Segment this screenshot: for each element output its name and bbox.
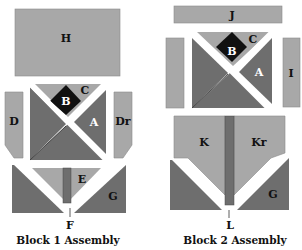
- block2-label-a: A: [254, 66, 264, 79]
- block1-label-dr: Dr: [115, 115, 131, 128]
- block2-caption: Block 2 Assembly: [183, 234, 287, 246]
- block2-label-l: L: [226, 219, 234, 232]
- block2-piece-j: [174, 6, 282, 23]
- block2-label-c: C: [249, 33, 258, 46]
- block1-label-h: H: [61, 32, 71, 45]
- block2-label-kr: Kr: [251, 136, 267, 149]
- block1-piece-f: [63, 168, 71, 203]
- block1-label-g: G: [108, 190, 117, 203]
- quilt-block-assembly-diagram: H B C A D Dr G E F B: [0, 0, 302, 250]
- block2-label-i: I: [288, 67, 293, 80]
- block-1-assembly: H B C A D Dr G E F B: [5, 9, 132, 246]
- block1-caption: Block 1 Assembly: [16, 234, 120, 246]
- block1-label-e: E: [78, 173, 86, 186]
- block2-piece-left-strip: [166, 38, 184, 108]
- block1-label-c: C: [81, 84, 90, 97]
- block2-label-b: B: [227, 45, 236, 58]
- block2-label-k: K: [199, 136, 209, 149]
- block2-label-g: G: [268, 188, 277, 201]
- block2-piece-l: [225, 116, 234, 205]
- block2-label-j: J: [228, 9, 234, 22]
- block1-label-a: A: [89, 116, 99, 129]
- block-2-assembly: J B C A I K Kr G L Block 2 Assembly: [166, 6, 300, 246]
- block1-label-b: B: [61, 95, 70, 108]
- block1-label-d: D: [9, 115, 19, 128]
- block1-label-f: F: [66, 219, 74, 232]
